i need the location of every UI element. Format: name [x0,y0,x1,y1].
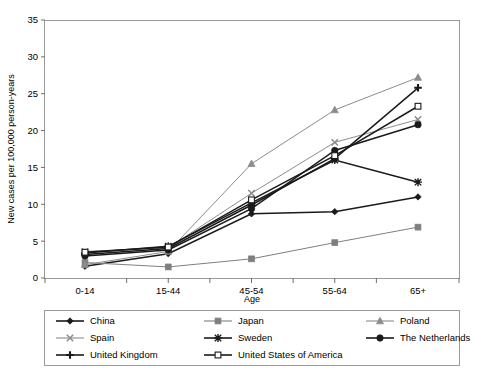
data-marker [249,197,255,203]
legend-item-united-kingdom[interactable]: United Kingdom [55,347,203,364]
data-marker [66,351,74,359]
legend-item-united-states-of-america[interactable]: United States of America [203,347,365,364]
data-marker [214,334,222,342]
legend-item-the-netherlands[interactable]: The Netherlands [365,330,470,347]
y-tick-label: 25 [27,88,38,99]
x-tick-label: 0-14 [75,285,94,296]
legend-item-spain[interactable]: Spain [55,330,203,347]
legend-item-label: United States of America [238,350,343,360]
data-marker [414,178,422,186]
x-tick-label: 15-44 [156,285,180,296]
data-marker [332,240,338,246]
circle-marker-icon [365,332,395,344]
y-tick-label: 0 [33,272,38,283]
y-axis: 05101520253035 [27,14,45,283]
legend-item-poland[interactable]: Poland [365,313,470,330]
legend-item-label: Spain [90,333,114,343]
series-japan [82,224,421,270]
legend-item-label: China [90,316,115,326]
data-marker [415,103,421,109]
data-marker [248,160,255,167]
x-tick-label: 55-64 [323,285,347,296]
legend-item-label: The Netherlands [400,333,470,343]
series-poland [82,74,422,268]
legend-item-label: Poland [400,316,430,326]
data-marker [377,335,383,341]
data-marker [215,318,221,324]
data-marker [82,249,88,255]
diamond-marker-icon [55,315,85,327]
y-tick-label: 10 [27,199,38,210]
data-marker [332,208,338,214]
series-united-kingdom [81,84,422,258]
data-marker [415,224,421,230]
plot-frame [45,21,460,279]
data-marker [415,74,422,81]
series-line [85,120,418,252]
series-line [85,106,418,252]
x-axis-title: Age [244,294,260,304]
legend-item-label: Sweden [238,333,272,343]
data-marker [249,256,255,262]
series-the-netherlands [82,121,421,259]
series-united-states-of-america [82,103,421,255]
x-marker-icon [55,332,85,344]
data-marker [332,153,338,159]
square-filled-marker-icon [203,315,233,327]
y-tick-label: 30 [27,51,38,62]
legend-item-label: Japan [238,316,264,326]
legend-item-sweden[interactable]: Sweden [203,330,365,347]
data-marker [332,139,338,145]
series-layer [81,74,422,270]
y-tick-label: 15 [27,162,38,173]
legend-item-china[interactable]: China [55,313,203,330]
legend-item-label: United Kingdom [90,350,158,360]
y-tick-label: 35 [27,14,38,25]
data-marker [215,352,221,358]
data-marker [165,244,171,250]
data-marker [415,121,421,127]
square-open-marker-icon [203,349,233,361]
x-tick-label: 65+ [410,285,427,296]
data-marker [165,264,171,270]
triangle-marker-icon [365,315,395,327]
legend: ChinaJapanPolandSpainSwedenThe Netherlan… [44,310,460,366]
y-tick-label: 5 [33,236,38,247]
data-marker [415,194,421,200]
series-spain [82,116,421,254]
chart-figure: 05101520253035 0-1415-4445-5455-6465+ Ne… [0,0,477,377]
legend-item-japan[interactable]: Japan [203,313,365,330]
y-axis-title: New cases per 100,000 person-years [6,74,16,224]
y-tick-label: 20 [27,125,38,136]
plus-marker-icon [55,349,85,361]
series-line [85,88,418,255]
asterisk-marker-icon [203,332,233,344]
data-marker [248,190,254,196]
legend-grid: ChinaJapanPolandSpainSwedenThe Netherlan… [45,311,459,365]
data-marker [67,318,73,324]
